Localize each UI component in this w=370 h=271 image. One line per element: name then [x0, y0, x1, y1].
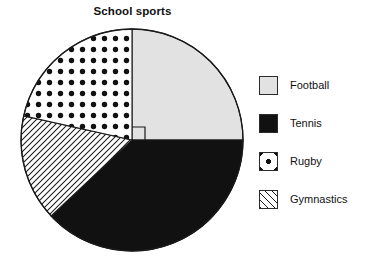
pie-chart [0, 0, 265, 271]
chart-legend: Football Tennis Rugby Gymnastics [259, 66, 367, 218]
legend-label-gymnastics: Gymnastics [290, 194, 347, 205]
legend-swatch-football-icon [259, 76, 278, 95]
legend-swatch-rugby-icon [259, 152, 278, 171]
pie-slice-football[interactable] [132, 29, 243, 140]
legend-item-gymnastics[interactable]: Gymnastics [259, 180, 367, 218]
legend-swatch-tennis-icon [259, 114, 278, 133]
legend-item-football[interactable]: Football [259, 66, 367, 104]
legend-item-rugby[interactable]: Rugby [259, 142, 367, 180]
legend-item-tennis[interactable]: Tennis [259, 104, 367, 142]
chart-figure: School sports Football [0, 0, 370, 271]
legend-label-rugby: Rugby [290, 156, 322, 167]
legend-label-football: Football [290, 80, 329, 91]
legend-label-tennis: Tennis [290, 118, 322, 129]
legend-swatch-gymnastics-icon [259, 190, 278, 209]
